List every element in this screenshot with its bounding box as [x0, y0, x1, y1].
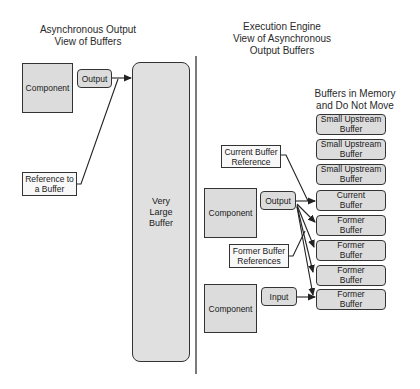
former-buffer: Former Buffer [316, 240, 386, 261]
left-view-title: Asynchronous Output View of Buffers [18, 24, 158, 48]
former-buffer-references-box: Former Buffer References [229, 244, 289, 268]
output-label: Output [265, 196, 291, 206]
former-buffer: Former Buffer [316, 215, 386, 236]
output-component-box: Component [204, 188, 257, 238]
input-component-box: Component [204, 284, 257, 333]
buffer-label: Former Buffer [337, 266, 364, 285]
reference-to-buffer-box: Reference to a Buffer [22, 172, 77, 196]
buffer-label: Small Upstream Buffer [321, 165, 381, 184]
input-label: Input [270, 292, 289, 302]
input-port: Input [261, 287, 297, 306]
former-buffer: Former Buffer [316, 289, 386, 310]
buffer-label: Former Buffer [337, 290, 364, 309]
buffer-label: Former Buffer [337, 241, 364, 260]
small-upstream-buffer: Small Upstream Buffer [316, 164, 386, 185]
buffer-label: Small Upstream Buffer [321, 140, 381, 159]
component-label: Component [26, 83, 70, 93]
former-buffer-references-label: Former Buffer References [233, 246, 285, 266]
right-view-title: Execution Engine View of Asynchronous Ou… [207, 21, 357, 57]
buffers-heading: Buffers in Memory and Do Not Move [300, 88, 410, 112]
current-buffer: Current Buffer [316, 190, 386, 211]
former-buffer: Former Buffer [316, 265, 386, 286]
small-upstream-buffer: Small Upstream Buffer [316, 114, 386, 135]
output-port: Output [77, 69, 112, 88]
small-upstream-buffer: Small Upstream Buffer [316, 139, 386, 160]
component-label: Component [209, 208, 253, 218]
component-label: Component [209, 304, 253, 314]
buffer-label: Current Buffer [337, 191, 365, 210]
buffer-label: Former Buffer [337, 216, 364, 235]
very-large-buffer-label: Very Large Buffer [149, 196, 173, 229]
current-buffer-reference-label: Current Buffer Reference [224, 147, 277, 167]
buffer-label: Small Upstream Buffer [321, 115, 381, 134]
current-buffer-reference-box: Current Buffer Reference [221, 145, 281, 168]
output-port: Output [260, 191, 296, 210]
very-large-buffer: Very Large Buffer [132, 62, 190, 362]
output-label: Output [82, 74, 108, 84]
reference-label: Reference to a Buffer [25, 174, 74, 194]
component-box: Component [22, 63, 73, 113]
